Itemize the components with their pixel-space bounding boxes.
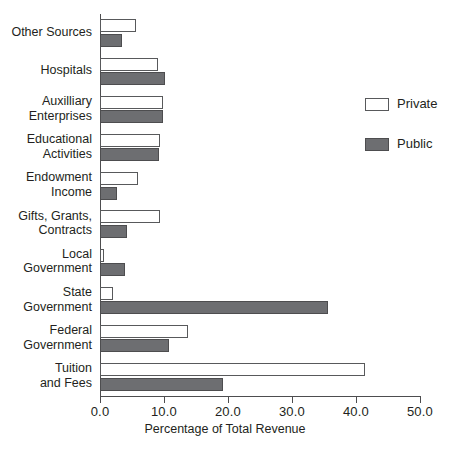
bar-public bbox=[100, 34, 122, 47]
legend-swatch-public-icon bbox=[365, 138, 389, 151]
x-axis-tick bbox=[228, 396, 229, 403]
x-axis-tick bbox=[356, 396, 357, 403]
category-label: Hospitals bbox=[0, 63, 92, 78]
x-axis-tick-label: 40.0 bbox=[326, 404, 386, 419]
category-label: StateGovernment bbox=[0, 285, 92, 314]
bar-public bbox=[100, 72, 165, 85]
category-label: FederalGovernment bbox=[0, 323, 92, 352]
bar-private bbox=[100, 249, 104, 262]
bar-private bbox=[100, 363, 365, 376]
bar-private bbox=[100, 325, 188, 338]
legend-item-public: Public bbox=[365, 136, 450, 154]
chart-legend: Private Public bbox=[365, 96, 450, 176]
x-axis-line bbox=[100, 396, 420, 397]
revenue-source-bar-chart: 0.010.020.030.040.050.0 Tuitionand FeesF… bbox=[0, 0, 450, 449]
x-axis-tick bbox=[420, 396, 421, 403]
bar-public bbox=[100, 225, 127, 238]
category-label: EndowmentIncome bbox=[0, 170, 92, 199]
bar-private bbox=[100, 96, 163, 109]
x-axis-tick-label: 30.0 bbox=[262, 404, 322, 419]
bar-public bbox=[100, 339, 169, 352]
category-label: EducationalActivities bbox=[0, 132, 92, 161]
bar-private bbox=[100, 287, 113, 300]
bar-public bbox=[100, 301, 328, 314]
bar-private bbox=[100, 19, 136, 32]
category-label: Gifts, Grants,Contracts bbox=[0, 209, 92, 238]
x-axis-tick-label: 50.0 bbox=[390, 404, 450, 419]
x-axis-title: Percentage of Total Revenue bbox=[0, 422, 450, 436]
x-axis-tick-label: 0.0 bbox=[70, 404, 130, 419]
x-axis-tick bbox=[164, 396, 165, 403]
legend-swatch-private-icon bbox=[365, 98, 389, 111]
bar-public bbox=[100, 378, 223, 391]
category-label: Tuitionand Fees bbox=[0, 361, 92, 390]
bar-public bbox=[100, 263, 125, 276]
x-axis-tick bbox=[292, 396, 293, 403]
legend-item-private: Private bbox=[365, 96, 450, 114]
bar-private bbox=[100, 134, 160, 147]
x-axis-tick-label: 10.0 bbox=[134, 404, 194, 419]
bar-private bbox=[100, 58, 158, 71]
bar-private bbox=[100, 172, 138, 185]
category-label: AuxilliaryEnterprises bbox=[0, 94, 92, 123]
x-axis-tick bbox=[100, 396, 101, 403]
bar-private bbox=[100, 210, 160, 223]
bar-public bbox=[100, 187, 117, 200]
category-label: LocalGovernment bbox=[0, 247, 92, 276]
bar-public bbox=[100, 110, 163, 123]
category-label: Other Sources bbox=[0, 25, 92, 40]
legend-label-private: Private bbox=[397, 96, 437, 111]
bar-public bbox=[100, 148, 159, 161]
x-axis-tick-label: 20.0 bbox=[198, 404, 258, 419]
legend-label-public: Public bbox=[397, 136, 432, 151]
